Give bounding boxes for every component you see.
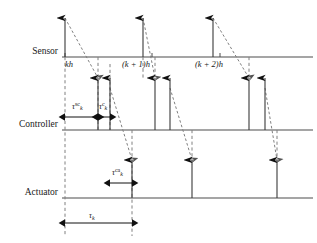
- event-impulses-group: [65, 18, 277, 198]
- time-tick-label-1: (k + 1)h: [122, 59, 150, 69]
- interval-label-tau-k: τk: [89, 211, 95, 221]
- axis-label-controller: Controller: [0, 119, 58, 129]
- timing-diagram-figure: SensorControllerActuator kh(k + 1)h(k + …: [0, 0, 317, 243]
- network-arrow-sensor-to-controller-k-plus-2: [213, 18, 249, 78]
- time-tick-label-2: (k + 2)h: [195, 59, 223, 69]
- axis-label-actuator: Actuator: [0, 187, 58, 197]
- network-arrow-sensor-to-controller-k: [65, 18, 98, 78]
- baselines-group: [62, 57, 313, 198]
- interval-label-tau-ca: τcak: [112, 167, 123, 177]
- network-arrow-sensor-to-controller-k-plus-1: [143, 18, 155, 78]
- network-transmission-arrows-group: [65, 18, 277, 160]
- dashed-guides-group: [65, 57, 277, 236]
- interval-label-tau-c: τck: [99, 101, 107, 111]
- interval-label-tau-sc: τsck: [72, 101, 83, 111]
- axis-label-sensor: Sensor: [0, 46, 58, 56]
- network-arrow-controller-to-actuator-k: [110, 88, 132, 160]
- time-tick-label-0: kh: [65, 59, 73, 69]
- network-arrow-controller-to-actuator-k-plus-2: [265, 88, 277, 160]
- network-arrow-controller-to-actuator-k-plus-1: [170, 88, 192, 160]
